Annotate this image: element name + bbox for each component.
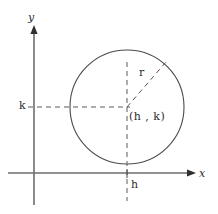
tick-label-k: k: [19, 100, 26, 111]
y-axis-label: y: [28, 12, 34, 23]
circle-diagram: y x k h r (h , k): [0, 0, 218, 214]
x-axis-label: x: [199, 168, 205, 179]
x-axis-arrowhead: [187, 169, 196, 176]
tick-label-h: h: [131, 179, 138, 190]
radius-guide-dashed: [127, 62, 166, 107]
y-axis-arrowhead: [30, 25, 37, 34]
diagram-canvas: [0, 0, 218, 214]
radius-label-r: r: [139, 67, 144, 78]
center-coordinates-label: (h , k): [129, 111, 165, 122]
